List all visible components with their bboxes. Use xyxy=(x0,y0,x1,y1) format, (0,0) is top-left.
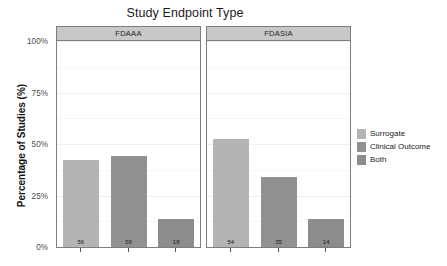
bar: 56 xyxy=(63,160,99,247)
legend-item: Both xyxy=(357,153,447,166)
gridline-major xyxy=(57,247,200,248)
y-axis-tick-labels: 0%25%50%75%100% xyxy=(12,0,48,266)
x-axis-tick-mark xyxy=(175,248,176,252)
x-axis-tick-mark xyxy=(128,248,129,252)
x-axis-tick-mark xyxy=(80,248,81,252)
legend-item: Clinical Outcome xyxy=(357,140,447,153)
facet-panel-fdaaa: FDAAA 565918 xyxy=(56,26,201,248)
facet-strip-label: FDAAA xyxy=(115,29,141,38)
legend-swatch xyxy=(357,142,366,152)
legend-swatch xyxy=(357,129,366,139)
x-axis-tick-mark xyxy=(278,248,279,252)
bar: 35 xyxy=(261,177,297,247)
chart-legend: SurrogateClinical OutcomeBoth xyxy=(357,127,447,166)
legend-swatch xyxy=(357,155,366,165)
plot-area-fdaaa: 565918 xyxy=(56,41,201,248)
x-axis-tick-mark xyxy=(230,248,231,252)
y-axis-tick-label: 0% xyxy=(12,243,48,252)
legend-item: Surrogate xyxy=(357,127,447,140)
bar: 14 xyxy=(308,219,344,247)
plot-area-fdasia: 543514 xyxy=(206,41,351,248)
bar-count-label: 54 xyxy=(213,239,249,245)
chart-container: Study Endpoint Type Percentage of Studie… xyxy=(0,0,447,266)
y-axis-tick-label: 25% xyxy=(12,191,48,200)
legend-label: Both xyxy=(370,155,386,164)
bar-count-label: 35 xyxy=(261,239,297,245)
y-axis-tick-label: 75% xyxy=(12,88,48,97)
y-axis-tick-label: 50% xyxy=(12,140,48,149)
bar-group-fdaaa: 565918 xyxy=(57,41,200,247)
bar-count-label: 14 xyxy=(308,239,344,245)
bar-count-label: 56 xyxy=(63,239,99,245)
facet-strip-label: FDASIA xyxy=(264,29,293,38)
gridline-major xyxy=(207,247,350,248)
chart-title: Study Endpoint Type xyxy=(0,6,370,20)
facet-strip-fdasia: FDASIA xyxy=(206,26,351,41)
bar: 54 xyxy=(213,139,249,247)
bar: 18 xyxy=(158,219,194,247)
x-axis-tick-mark xyxy=(325,248,326,252)
bar-group-fdasia: 543514 xyxy=(207,41,350,247)
y-axis-tick-label: 100% xyxy=(12,37,48,46)
legend-label: Surrogate xyxy=(370,129,405,138)
bar: 59 xyxy=(111,156,147,247)
legend-label: Clinical Outcome xyxy=(370,142,430,151)
facet-panel-fdasia: FDASIA 543514 xyxy=(206,26,351,248)
facet-strip-fdaaa: FDAAA xyxy=(56,26,201,41)
bar-count-label: 18 xyxy=(158,239,194,245)
bar-count-label: 59 xyxy=(111,239,147,245)
